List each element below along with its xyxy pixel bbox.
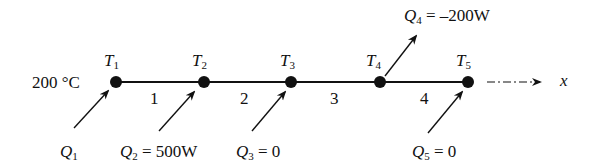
node-label-1: T1 [104,52,119,71]
q5-arrow [428,92,462,133]
element-label-4: 4 [420,90,429,107]
node-label-5: T5 [456,52,471,71]
bar-diagram [0,0,595,168]
load-label-5: Q5 = 0 [412,143,456,162]
load-label-3: Q3 = 0 [236,143,280,162]
element-label-2: 2 [240,90,249,107]
q3-arrow [252,92,285,131]
load-label-2: Q2 = 500W [120,143,197,162]
q4-arrow [385,36,416,76]
element-label-1: 1 [150,90,159,107]
node-4 [374,76,386,88]
node-label-2: T2 [192,52,207,71]
node-label-4: T4 [366,52,381,71]
node-label-3: T3 [280,52,295,71]
node-5 [462,76,474,88]
element-label-3: 3 [330,90,339,107]
node-3 [285,76,297,88]
load-label-1: Q1 [60,143,78,162]
q2-arrow [159,92,194,131]
node-2 [198,76,210,88]
axis-label-x: x [560,72,568,89]
boundary-temperature: 200 °C [32,74,80,91]
load-label-4: Q4 = –200W [404,7,490,26]
q1-arrow [74,91,108,128]
node-1 [110,76,122,88]
